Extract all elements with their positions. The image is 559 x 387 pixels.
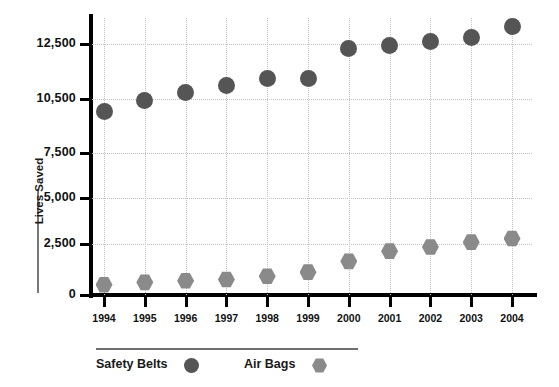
vertical-gridline <box>267 18 268 295</box>
x-tick-mark <box>470 296 473 307</box>
x-tick-label: 2002 <box>407 312 453 324</box>
vertical-gridline <box>186 18 187 295</box>
vertical-gridline <box>349 18 350 295</box>
x-tick-label: 2000 <box>326 312 372 324</box>
y-tick-mark <box>80 294 92 297</box>
x-tick-label: 2001 <box>367 312 413 324</box>
y-tick-label: 7,500 <box>22 145 76 159</box>
x-tick-label: 1999 <box>285 312 331 324</box>
x-tick-mark <box>511 296 514 307</box>
data-point <box>463 234 480 251</box>
y-tick-label: 12,500 <box>22 36 76 50</box>
data-point <box>340 253 357 270</box>
y-tick-label: 0 <box>22 287 76 301</box>
chart-legend: Safety BeltsAir Bags <box>96 356 396 376</box>
legend-divider <box>96 348 358 350</box>
y-tick-mark <box>80 197 92 200</box>
data-point <box>177 272 194 289</box>
vertical-gridline <box>471 18 472 295</box>
vertical-gridline <box>226 18 227 295</box>
x-tick-label: 1997 <box>203 312 249 324</box>
data-point <box>259 268 276 285</box>
x-tick-label: 1998 <box>244 312 290 324</box>
x-tick-mark <box>429 296 432 307</box>
x-tick-label: 2004 <box>489 312 535 324</box>
vertical-gridline <box>104 18 105 295</box>
vertical-gridline <box>145 18 146 295</box>
y-tick-label: 10,500 <box>22 91 76 105</box>
legend-label: Safety Belts <box>96 357 168 371</box>
x-tick-mark <box>185 296 188 307</box>
plot-area <box>92 18 532 295</box>
y-tick-label: 5,000 <box>22 190 76 204</box>
data-point <box>300 70 317 87</box>
horizontal-gridline <box>92 99 532 100</box>
legend-circle-icon <box>184 358 199 373</box>
x-tick-label: 2003 <box>448 312 494 324</box>
data-point <box>340 40 357 57</box>
legend-hexagon-icon <box>312 358 327 373</box>
x-tick-mark <box>103 296 106 307</box>
chart-container: Lives Saved 02,5005,0007,50010,50012,500… <box>0 0 559 387</box>
legend-label: Air Bags <box>244 357 295 371</box>
data-point <box>422 33 439 50</box>
data-point <box>504 18 521 35</box>
vertical-gridline <box>308 18 309 295</box>
data-point <box>136 274 153 291</box>
x-tick-mark <box>225 296 228 307</box>
x-tick-mark <box>144 296 147 307</box>
x-tick-mark <box>389 296 392 307</box>
data-point <box>96 103 113 120</box>
horizontal-gridline <box>92 198 532 199</box>
data-point <box>300 264 317 281</box>
y-tick-mark <box>80 43 92 46</box>
data-point <box>381 37 398 54</box>
data-point <box>463 29 480 46</box>
data-point <box>177 84 194 101</box>
x-tick-label: 1994 <box>81 312 127 324</box>
data-point <box>96 276 113 293</box>
data-point <box>136 92 153 109</box>
vertical-gridline <box>512 18 513 295</box>
data-point <box>422 239 439 256</box>
x-tick-label: 1996 <box>163 312 209 324</box>
data-point <box>218 271 235 288</box>
horizontal-gridline <box>92 153 532 154</box>
data-point <box>381 243 398 260</box>
data-point <box>259 70 276 87</box>
x-tick-label: 1995 <box>122 312 168 324</box>
y-tick-mark <box>80 243 92 246</box>
y-tick-mark <box>80 152 92 155</box>
data-point <box>218 77 235 94</box>
x-tick-mark <box>307 296 310 307</box>
y-tick-label: 2,500 <box>22 236 76 250</box>
x-tick-mark <box>266 296 269 307</box>
y-tick-mark <box>80 98 92 101</box>
x-tick-mark <box>348 296 351 307</box>
